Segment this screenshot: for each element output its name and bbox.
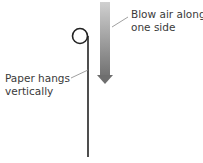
air-label: Blow air along one side bbox=[131, 8, 203, 34]
paper-strip bbox=[73, 29, 89, 158]
paper-label-line-1: Paper hangs bbox=[5, 72, 70, 85]
air-arrow-icon bbox=[97, 2, 113, 84]
air-leader-line bbox=[112, 17, 128, 27]
air-label-line-1: Blow air along bbox=[131, 8, 203, 21]
paper-label: Paper hangs vertically bbox=[5, 72, 70, 98]
paper-label-line-2: vertically bbox=[5, 85, 70, 98]
air-label-line-2: one side bbox=[131, 21, 203, 34]
paper-leader-line bbox=[71, 70, 88, 78]
